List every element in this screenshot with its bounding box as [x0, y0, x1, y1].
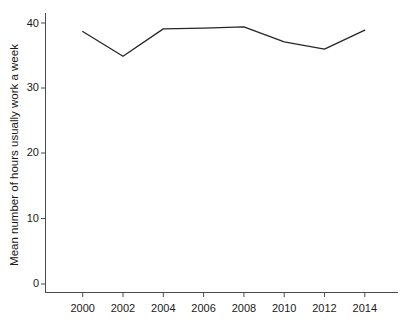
line-chart-canvas: Mean number of hours usually work a week… — [0, 0, 412, 327]
x-tick-label-2004: 2004 — [151, 302, 175, 314]
x-tick-label-2010: 2010 — [272, 302, 296, 314]
data-line-series-0 — [83, 27, 365, 56]
x-tick-label-2008: 2008 — [232, 302, 256, 314]
x-tick-label-2000: 2000 — [70, 302, 94, 314]
chart-figure: Mean number of hours usually work a week… — [0, 0, 412, 327]
y-tick-label-10: 10 — [27, 212, 39, 224]
y-axis-title: Mean number of hours usually work a week — [8, 44, 20, 266]
y-tick-label-40: 40 — [27, 17, 39, 29]
y-tick-label-0: 0 — [33, 277, 39, 289]
y-tick-label-20: 20 — [27, 146, 39, 158]
x-tick-label-2012: 2012 — [312, 302, 336, 314]
x-tick-label-2002: 2002 — [111, 302, 135, 314]
x-tick-label-2006: 2006 — [191, 302, 215, 314]
y-tick-label-30: 30 — [27, 81, 39, 93]
x-tick-label-2014: 2014 — [353, 302, 377, 314]
